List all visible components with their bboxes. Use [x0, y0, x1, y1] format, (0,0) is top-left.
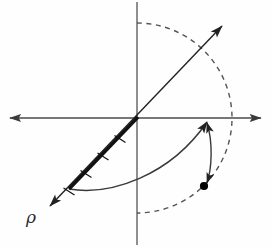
rho-vector-line [50, 26, 222, 206]
rho-label: ρ [26, 209, 36, 226]
polar-vector-diagram: ρ [0, 0, 271, 247]
marked-point [200, 182, 208, 190]
rho-magnitude-segment [69, 117, 138, 189]
diagram-canvas [0, 0, 271, 247]
point-rotation-arc [207, 123, 211, 183]
rotation-arc [69, 122, 207, 190]
